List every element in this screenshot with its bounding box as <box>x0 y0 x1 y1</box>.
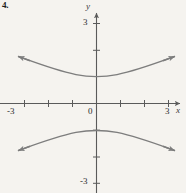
hyperbola-lower-left-arrowhead <box>19 146 31 150</box>
y-axis-label: y <box>86 2 90 11</box>
plot-canvas <box>0 0 186 193</box>
y-tick-label-positive-three: 3 <box>83 18 88 27</box>
x-tick-label-positive-three: 3 <box>165 107 170 116</box>
hyperbola-upper-right-arrowhead <box>163 57 175 61</box>
hyperbola-lower-right-arrowhead <box>163 146 175 150</box>
x-axis-label: x <box>176 106 180 115</box>
x-tick-label-negative-three: -3 <box>7 107 15 116</box>
origin-tick-label: 0 <box>88 107 93 116</box>
hyperbola-figure: 4. <box>0 0 186 193</box>
hyperbola-upper-left-arrowhead <box>19 57 31 61</box>
y-tick-label-negative-three: -3 <box>80 177 88 186</box>
